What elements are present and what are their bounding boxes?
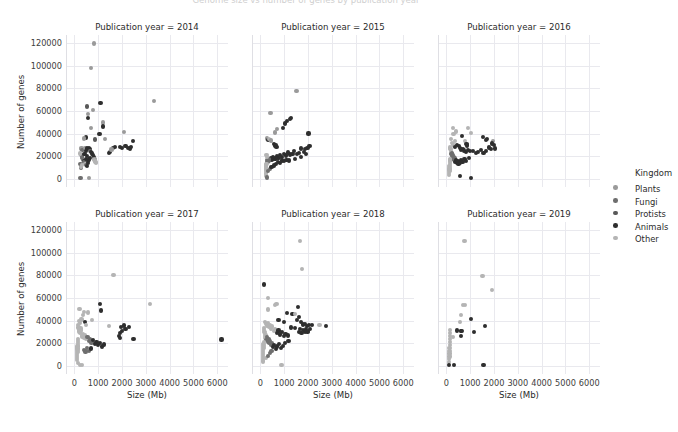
scatter-point <box>265 175 269 179</box>
x-axis-label: Size (Mb) <box>252 390 414 400</box>
gridline-horizontal <box>438 366 600 367</box>
gridline-horizontal <box>66 43 228 44</box>
gridline-horizontal <box>438 275 600 276</box>
x-tick-label: 6000 <box>579 378 600 388</box>
x-tick-label: 6000 <box>393 378 414 388</box>
scatter-point <box>463 303 467 307</box>
facet-2018: Publication year = 2018 <box>252 209 414 374</box>
scatter-point <box>281 126 285 130</box>
y-tick-label: 0 <box>16 174 62 184</box>
scatter-point <box>129 145 133 149</box>
scatter-point <box>78 176 82 180</box>
scatter-point <box>131 337 135 341</box>
scatter-point <box>458 320 462 324</box>
scatter-point <box>89 126 93 130</box>
y-tick-label: 120000 <box>16 225 62 235</box>
scatter-point <box>97 132 101 136</box>
gridline-horizontal <box>66 134 228 135</box>
y-tick-label: 80000 <box>16 270 62 280</box>
gridline-horizontal <box>438 343 600 344</box>
scatter-point <box>86 116 90 120</box>
scatter-point <box>268 111 272 115</box>
y-tick-label: 0 <box>16 361 62 371</box>
gridline-horizontal <box>66 366 228 367</box>
x-tick-label: 1000 <box>460 378 481 388</box>
scatter-point <box>274 302 278 306</box>
x-tick-label: 0 <box>258 378 263 388</box>
scatter-point <box>299 146 303 150</box>
scatter-point <box>462 239 466 243</box>
x-tick-label: 4000 <box>531 378 552 388</box>
scatter-point <box>447 173 451 177</box>
scatter-point <box>296 305 300 309</box>
legend: Kingdom PlantsFungiProtistsAnimalsOther <box>622 168 678 244</box>
gridline-horizontal <box>438 230 600 231</box>
gridline-horizontal <box>66 111 228 112</box>
scatter-point <box>266 307 270 311</box>
plot-area <box>438 222 600 374</box>
scatter-point <box>286 339 290 343</box>
scatter-point <box>84 323 88 327</box>
y-tick-label: 20000 <box>16 151 62 161</box>
plot-canvas <box>252 222 414 374</box>
legend-marker-icon <box>613 223 618 228</box>
gridline-horizontal <box>252 179 414 180</box>
x-tick-label: 3000 <box>321 378 342 388</box>
scatter-point <box>98 302 102 306</box>
gridline-horizontal <box>252 66 414 67</box>
axis-spine-left <box>438 35 439 187</box>
plot-area <box>252 222 414 374</box>
scatter-point <box>82 136 86 140</box>
facet-2016: Publication year = 2016 <box>438 22 600 187</box>
legend-item-other[interactable]: Other <box>622 231 678 244</box>
scatter-point <box>102 342 106 346</box>
axis-spine-left <box>252 35 253 187</box>
scatter-point <box>92 41 96 45</box>
scatter-point <box>472 330 476 334</box>
x-tick-label: 6000 <box>207 378 228 388</box>
scatter-point <box>299 155 303 159</box>
facet-title: Publication year = 2017 <box>66 209 228 220</box>
gridline-horizontal <box>66 88 228 89</box>
gridline-horizontal <box>438 179 600 180</box>
scatter-point <box>93 137 97 141</box>
legend-item-fungi[interactable]: Fungi <box>622 194 678 207</box>
x-tick-label: 5000 <box>369 378 390 388</box>
legend-marker-icon <box>613 236 618 241</box>
legend-item-animals[interactable]: Animals <box>622 219 678 232</box>
scatter-point <box>77 307 81 311</box>
scatter-point <box>289 116 293 120</box>
scatter-point <box>459 313 463 317</box>
gridline-horizontal <box>438 66 600 67</box>
x-tick-label: 5000 <box>555 378 576 388</box>
legend-marker-icon <box>613 185 618 190</box>
scatter-point <box>103 137 107 141</box>
legend-item-protists[interactable]: Protists <box>622 206 678 219</box>
scatter-point <box>282 320 286 324</box>
scatter-point <box>148 302 152 306</box>
plot-canvas <box>438 222 600 374</box>
scatter-point <box>89 346 93 350</box>
legend-item-plants[interactable]: Plants <box>622 181 678 194</box>
scatter-point <box>297 330 301 334</box>
plot-area <box>438 35 600 187</box>
gridline-horizontal <box>252 253 414 254</box>
plot-canvas <box>66 35 228 187</box>
gridline-horizontal <box>438 321 600 322</box>
scatter-point <box>465 143 469 147</box>
facet-2017: Publication year = 2017 <box>66 209 228 374</box>
gridline-horizontal <box>66 253 228 254</box>
scatter-point <box>273 130 277 134</box>
facet-2015: Publication year = 2015 <box>252 22 414 187</box>
legend-marker-icon <box>613 211 618 216</box>
scatter-point <box>294 89 298 93</box>
scatter-point <box>279 363 283 367</box>
gridline-horizontal <box>252 43 414 44</box>
gridline-horizontal <box>66 298 228 299</box>
scatter-point <box>219 337 223 341</box>
x-tick-label: 0 <box>72 378 77 388</box>
x-tick-label: 4000 <box>345 378 366 388</box>
x-tick-label: 2000 <box>484 378 505 388</box>
scatter-point <box>466 126 470 130</box>
x-tick-label: 1000 <box>88 378 109 388</box>
